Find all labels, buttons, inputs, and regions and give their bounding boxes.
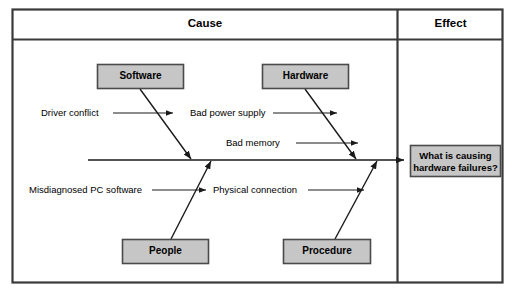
cause-label-physical-connection: Physical connection — [213, 184, 297, 195]
bone-procedure — [335, 161, 377, 239]
header-effect: Effect — [398, 17, 503, 29]
cause-label-bad-power-supply: Bad power supply — [190, 107, 266, 118]
cause-label-misdiagnosed-pc-software: Misdiagnosed PC software — [29, 184, 142, 195]
category-label-hardware: Hardware — [262, 70, 349, 82]
effect-text-line-1: What is causing — [410, 150, 501, 162]
header-cause: Cause — [12, 17, 398, 29]
cause-label-bad-memory: Bad memory — [226, 137, 280, 148]
fishbone-diagram-canvas: Cause Effect Software Hardware People Pr… — [0, 0, 515, 295]
effect-text-line-2: hardware failures? — [410, 162, 501, 174]
bone-hardware — [305, 89, 356, 159]
bone-software — [140, 89, 191, 159]
bone-people — [171, 161, 211, 239]
cause-label-driver-conflict: Driver conflict — [41, 107, 99, 118]
category-label-software: Software — [97, 70, 184, 82]
category-label-people: People — [122, 245, 209, 257]
category-label-procedure: Procedure — [283, 245, 371, 257]
